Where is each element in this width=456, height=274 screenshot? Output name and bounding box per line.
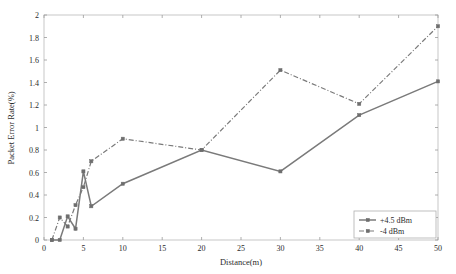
- line-chart: 05101520253035404550 00.20.40.60.811.21.…: [0, 0, 456, 274]
- axes: [44, 15, 438, 240]
- data-point-marker: [58, 238, 61, 241]
- x-tick-label: 15: [158, 244, 166, 253]
- x-tick-label: 0: [42, 244, 46, 253]
- data-point-marker: [90, 205, 93, 208]
- data-point-marker: [358, 114, 361, 117]
- series-line-1: [52, 26, 438, 240]
- legend-label-0: +4.5 dBm: [380, 216, 413, 225]
- x-tick-label: 45: [395, 244, 403, 253]
- y-tick-label: 0: [35, 236, 39, 245]
- x-tick-label: 50: [434, 244, 442, 253]
- data-point-marker: [58, 216, 61, 219]
- data-point-marker: [121, 182, 124, 185]
- y-tick-label: 1.4: [29, 79, 39, 88]
- data-point-marker: [279, 69, 282, 72]
- data-point-marker: [74, 227, 77, 230]
- data-series: [50, 25, 439, 242]
- x-tick-label: 5: [81, 244, 85, 253]
- x-tick-label: 25: [237, 244, 245, 253]
- data-point-marker: [358, 102, 361, 105]
- y-tick-label: 0.6: [29, 169, 39, 178]
- y-tick-label: 1: [35, 124, 39, 133]
- y-tick-label: 2: [35, 11, 39, 20]
- legend-label-1: -4 dBm: [380, 227, 405, 236]
- x-tick-label: 30: [276, 244, 284, 253]
- y-tick-label: 0.4: [29, 191, 39, 200]
- x-tick-label: 35: [316, 244, 324, 253]
- x-tick-label: 10: [119, 244, 127, 253]
- data-point-marker: [279, 170, 282, 173]
- data-point-marker: [66, 225, 69, 228]
- y-tick-label: 1.2: [29, 101, 39, 110]
- y-axis-tick-labels: 00.20.40.60.811.21.41.61.82: [29, 11, 438, 245]
- data-point-marker: [200, 148, 203, 151]
- data-point-marker: [82, 170, 85, 173]
- data-point-marker: [50, 238, 53, 241]
- data-point-marker: [66, 215, 69, 218]
- chart-legend: +4.5 dBm-4 dBm: [354, 211, 436, 238]
- data-point-marker: [74, 204, 77, 207]
- x-tick-label: 20: [198, 244, 206, 253]
- chart-figure: 05101520253035404550 00.20.40.60.811.21.…: [0, 0, 456, 274]
- data-point-marker: [90, 160, 93, 163]
- y-axis-title: Packet Error Rate(%): [6, 91, 16, 164]
- data-point-marker: [121, 137, 124, 140]
- y-tick-label: 0.8: [29, 146, 39, 155]
- data-point-marker: [82, 186, 85, 189]
- data-point-marker: [436, 25, 439, 28]
- x-axis-title: Distance(m): [220, 257, 262, 267]
- y-tick-label: 1.8: [29, 34, 39, 43]
- data-point-marker: [436, 80, 439, 83]
- x-tick-label: 40: [355, 244, 363, 253]
- y-tick-label: 1.6: [29, 56, 39, 65]
- y-tick-label: 0.2: [29, 214, 39, 223]
